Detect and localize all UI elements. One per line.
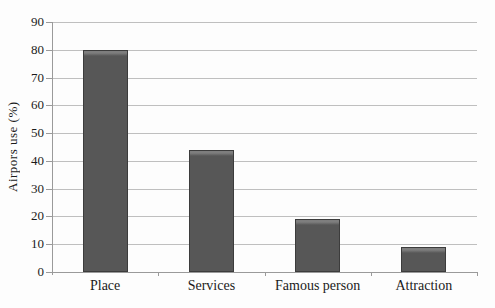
y-axis-title: Airpors use (%) xyxy=(5,22,21,272)
x-axis-tick xyxy=(371,272,372,276)
y-tick-label: 80 xyxy=(10,43,44,57)
y-tick-label: 0 xyxy=(10,265,44,279)
x-category-label: Attraction xyxy=(364,278,484,294)
x-axis-tick xyxy=(477,272,478,276)
y-tick-label: 50 xyxy=(10,126,44,140)
x-axis-tick xyxy=(158,272,159,276)
gridline xyxy=(52,22,477,23)
y-tick-label: 60 xyxy=(10,98,44,112)
y-tick-label: 20 xyxy=(10,209,44,223)
bar-attraction xyxy=(401,247,446,272)
y-axis-line xyxy=(52,22,53,275)
y-tick-label: 10 xyxy=(10,237,44,251)
x-category-label: Place xyxy=(45,278,165,294)
y-tick-label: 40 xyxy=(10,154,44,168)
x-category-label: Famous person xyxy=(258,278,378,294)
y-tick-label: 70 xyxy=(10,71,44,85)
bar-famous-person xyxy=(295,219,340,272)
chart-page: { "chart_data": { "type": "bar", "catego… xyxy=(0,0,495,308)
x-axis-tick xyxy=(265,272,266,276)
x-category-label: Services xyxy=(151,278,271,294)
bar-services xyxy=(189,150,234,272)
plot-area xyxy=(52,22,477,272)
y-tick-label: 30 xyxy=(10,182,44,196)
bar-chart: Airpors use (%) 0102030405060708090Place… xyxy=(0,0,495,308)
y-tick-label: 90 xyxy=(10,15,44,29)
bar-place xyxy=(83,50,128,272)
